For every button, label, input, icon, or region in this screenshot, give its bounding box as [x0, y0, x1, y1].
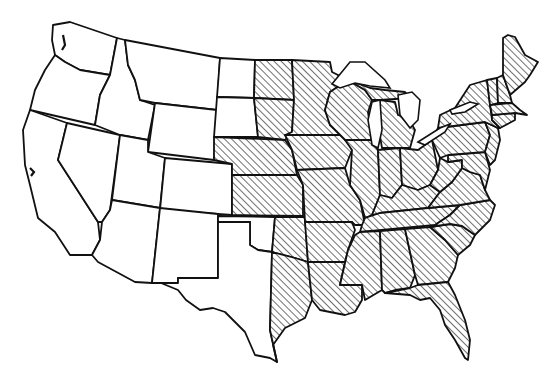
state-north-dakota-west — [217, 58, 255, 98]
us-map — [0, 0, 555, 374]
state-texas-east — [270, 252, 312, 362]
state-iowa — [285, 135, 352, 170]
state-south-dakota-west — [214, 97, 258, 137]
us-map-svg — [0, 0, 555, 374]
state-north-dakota-east — [254, 60, 294, 100]
state-massachusetts — [490, 103, 527, 115]
state-wyoming — [148, 103, 217, 160]
state-florida — [385, 282, 470, 360]
lake-superior — [332, 62, 390, 88]
state-montana — [125, 40, 220, 110]
state-maine — [503, 35, 538, 95]
state-new-mexico — [152, 208, 218, 283]
state-colorado — [160, 158, 232, 215]
state-kansas — [232, 175, 303, 216]
